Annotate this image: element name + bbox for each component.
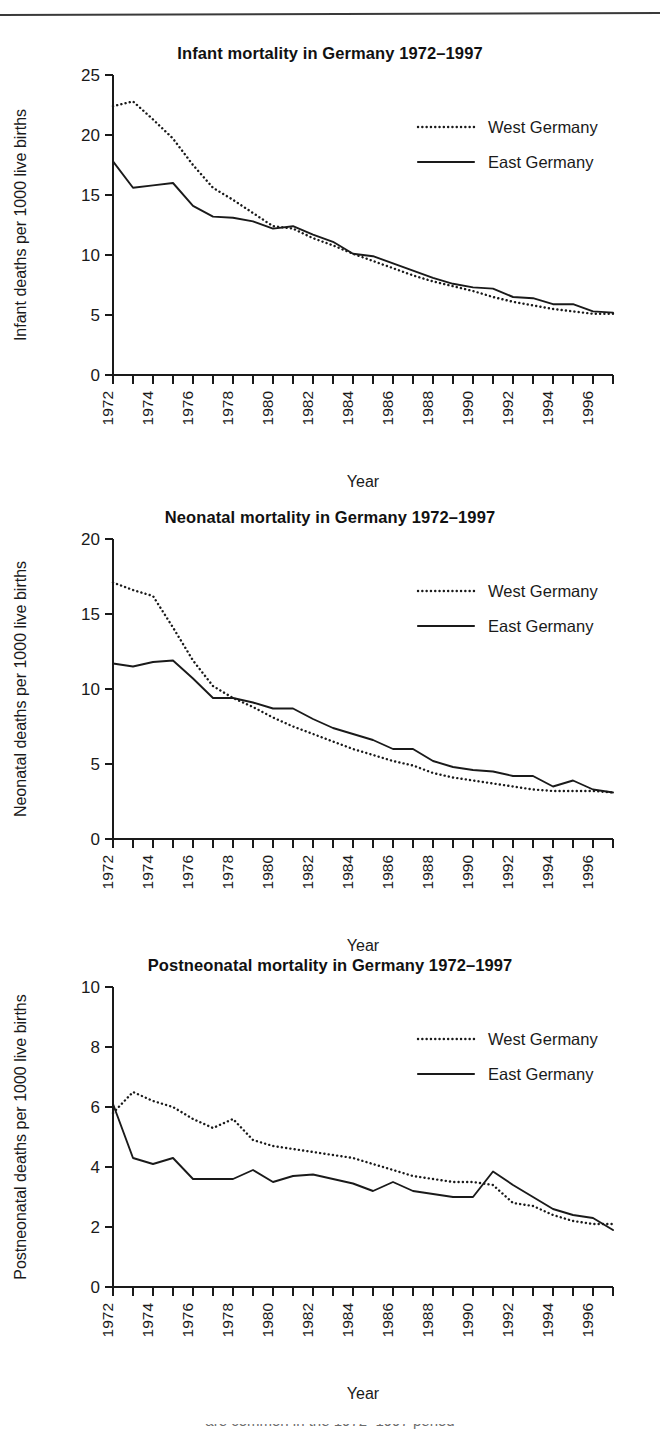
cut-off-caption-text: are common in the 1972–1997 period [0, 1424, 660, 1428]
series-line-west [113, 1092, 613, 1224]
x-tick-label: 1980 [259, 855, 276, 890]
x-tick-label: 1976 [179, 391, 196, 425]
x-axis-title: Year [347, 937, 380, 954]
x-tick-label: 1980 [259, 1303, 276, 1338]
legend-label-west: West Germany [488, 1030, 598, 1048]
x-tick-label: 1978 [219, 1303, 236, 1337]
x-axis-title: Year [347, 1385, 380, 1402]
x-tick-label: 1986 [379, 1303, 396, 1337]
x-tick-label: 1984 [339, 1303, 356, 1338]
legend-label-east: East Germany [488, 1065, 594, 1083]
x-tick-label: 1986 [379, 391, 396, 425]
x-tick-label: 1994 [539, 1303, 556, 1338]
x-tick-label: 1992 [499, 855, 516, 889]
series-line-east [113, 1104, 613, 1230]
y-axis-title: Infant deaths per 1000 live births [12, 109, 29, 341]
y-tick-label: 10 [81, 680, 100, 699]
x-tick-label: 1990 [459, 1303, 476, 1338]
legend-label-west: West Germany [488, 582, 598, 600]
x-tick-label: 1972 [99, 391, 116, 425]
legend-label-west: West Germany [488, 118, 598, 136]
chart-figure-neonatal: Neonatal mortality in Germany 1972–1997 … [0, 508, 660, 978]
x-tick-label: 1988 [419, 1303, 436, 1337]
x-tick-label: 1992 [499, 1303, 516, 1337]
series-line-west [113, 583, 613, 793]
x-tick-label: 1972 [99, 1303, 116, 1337]
chart-canvas-infant: 0510152025197219741976197819801982198419… [0, 67, 660, 507]
chart-title-neonatal: Neonatal mortality in Germany 1972–1997 [0, 508, 660, 531]
x-tick-label: 1982 [299, 391, 316, 425]
y-tick-label: 20 [81, 531, 100, 549]
y-axis-title: Neonatal deaths per 1000 live births [12, 561, 29, 817]
x-tick-label: 1996 [579, 1303, 596, 1337]
y-tick-label: 15 [81, 605, 100, 624]
x-tick-label: 1978 [219, 391, 236, 425]
x-tick-label: 1978 [219, 855, 236, 889]
y-tick-label: 4 [91, 1158, 100, 1177]
x-tick-label: 1996 [579, 391, 596, 425]
chart-figure-postneonatal: Postneonatal mortality in Germany 1972–1… [0, 956, 660, 1416]
chart-title-postneonatal: Postneonatal mortality in Germany 1972–1… [0, 956, 660, 979]
y-tick-label: 0 [91, 1278, 100, 1297]
y-tick-label: 20 [81, 126, 100, 145]
x-tick-label: 1992 [499, 391, 516, 425]
y-tick-label: 25 [81, 67, 100, 85]
series-line-east [113, 661, 613, 793]
y-tick-label: 5 [91, 755, 100, 774]
y-tick-label: 0 [91, 366, 100, 385]
x-tick-label: 1974 [139, 391, 156, 426]
x-tick-label: 1990 [459, 855, 476, 890]
chart-title-infant: Infant mortality in Germany 1972–1997 [0, 44, 660, 67]
cut-off-caption: are common in the 1972–1997 period [0, 1424, 660, 1435]
figure-page: Infant mortality in Germany 1972–1997 05… [0, 0, 660, 1435]
x-tick-label: 1972 [99, 855, 116, 889]
x-tick-label: 1982 [299, 855, 316, 889]
y-tick-label: 10 [81, 979, 100, 997]
x-tick-label: 1984 [339, 391, 356, 426]
y-tick-label: 6 [91, 1098, 100, 1117]
x-tick-label: 1984 [339, 855, 356, 890]
chart-canvas-neonatal: 0510152019721974197619781980198219841986… [0, 531, 660, 971]
y-tick-label: 5 [91, 306, 100, 325]
x-tick-label: 1974 [139, 855, 156, 890]
x-tick-label: 1994 [539, 855, 556, 890]
x-tick-label: 1980 [259, 391, 276, 426]
x-tick-label: 1988 [419, 855, 436, 889]
y-tick-label: 15 [81, 186, 100, 205]
x-tick-label: 1988 [419, 391, 436, 425]
y-tick-label: 10 [81, 246, 100, 265]
x-tick-label: 1994 [539, 391, 556, 426]
legend-label-east: East Germany [488, 153, 594, 171]
x-axis-title: Year [347, 473, 380, 490]
legend-label-east: East Germany [488, 617, 594, 635]
y-tick-label: 0 [91, 830, 100, 849]
chart-canvas-postneonatal: 0246810197219741976197819801982198419861… [0, 979, 660, 1419]
y-tick-label: 8 [91, 1038, 100, 1057]
x-tick-label: 1974 [139, 1303, 156, 1338]
x-tick-label: 1976 [179, 855, 196, 889]
y-tick-label: 2 [91, 1218, 100, 1237]
x-tick-label: 1976 [179, 1303, 196, 1337]
x-tick-label: 1990 [459, 391, 476, 426]
series-line-east [113, 161, 613, 312]
chart-figure-infant: Infant mortality in Germany 1972–1997 05… [0, 44, 660, 514]
x-tick-label: 1982 [299, 1303, 316, 1337]
x-tick-label: 1986 [379, 855, 396, 889]
header-rule [0, 12, 660, 16]
y-axis-title: Postneonatal deaths per 1000 live births [12, 994, 29, 1280]
x-tick-label: 1996 [579, 855, 596, 889]
